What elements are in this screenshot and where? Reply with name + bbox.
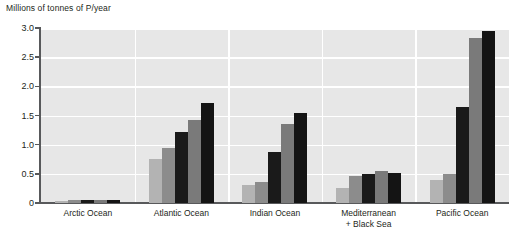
- y-axis-tick-label: 3.0: [0, 23, 34, 33]
- bar: [255, 182, 268, 203]
- x-axis-category-label: Pacific Ocean: [415, 208, 509, 230]
- bar: [81, 200, 94, 203]
- x-axis-category-label-line1: Indian Ocean: [228, 208, 322, 219]
- bar: [469, 38, 482, 203]
- x-axis-labels: Arctic OceanAtlantic OceanIndian OceanMe…: [41, 208, 509, 230]
- y-axis-tick-label: 1.0: [0, 140, 34, 150]
- bar: [294, 113, 307, 203]
- bar-group: [228, 28, 322, 203]
- y-axis-tick: [35, 115, 40, 117]
- bar: [149, 159, 162, 203]
- bar: [281, 124, 294, 203]
- x-axis-category-label-line2: + Black Sea: [322, 219, 416, 230]
- x-axis-category-label: Atlantic Ocean: [135, 208, 229, 230]
- y-axis-tick-label: 2.0: [0, 81, 34, 91]
- y-axis-tick: [35, 202, 40, 204]
- y-axis-tick: [35, 27, 40, 29]
- bar: [94, 200, 107, 203]
- bar: [336, 188, 349, 203]
- bar: [55, 201, 68, 203]
- x-axis-category-label: Indian Ocean: [228, 208, 322, 230]
- y-axis-tick-label: 1.5: [0, 111, 34, 121]
- y-axis-tick-label: 0.5: [0, 169, 34, 179]
- bar: [443, 174, 456, 203]
- y-axis-tick: [35, 173, 40, 175]
- bar-group: [415, 28, 509, 203]
- bar: [482, 31, 495, 203]
- bar: [242, 185, 255, 203]
- bar: [456, 107, 469, 203]
- bar: [349, 176, 362, 203]
- bar: [268, 152, 281, 203]
- bar: [68, 200, 81, 203]
- bar-group: [322, 28, 416, 203]
- y-axis-tick: [35, 56, 40, 58]
- bar-group: [41, 28, 135, 203]
- bar-group: [135, 28, 229, 203]
- bar: [162, 148, 175, 203]
- bar: [107, 200, 120, 204]
- x-axis-category-label-line1: Arctic Ocean: [41, 208, 135, 219]
- y-axis-tick: [35, 86, 40, 88]
- y-axis-tick-label: 2.5: [0, 52, 34, 62]
- bar: [430, 180, 443, 203]
- x-axis-category-label: Arctic Ocean: [41, 208, 135, 230]
- x-axis-category-label-line1: Atlantic Ocean: [135, 208, 229, 219]
- x-axis-category-label-line1: Pacific Ocean: [415, 208, 509, 219]
- bar: [388, 173, 401, 203]
- bar-groups: [41, 28, 509, 203]
- bar: [188, 120, 201, 203]
- y-axis-tick: [35, 144, 40, 146]
- x-axis-category-label: Mediterranean+ Black Sea: [322, 208, 416, 230]
- bar: [175, 132, 188, 203]
- x-axis-category-label-line1: Mediterranean: [322, 208, 416, 219]
- bar-chart: Millions of tonnes of P/year 00.51.01.52…: [0, 0, 517, 241]
- bar: [201, 103, 214, 203]
- y-axis-labels: 00.51.01.52.02.53.0: [0, 0, 34, 241]
- bar: [362, 174, 375, 203]
- bar: [375, 171, 388, 203]
- y-axis-tick-label: 0: [0, 198, 34, 208]
